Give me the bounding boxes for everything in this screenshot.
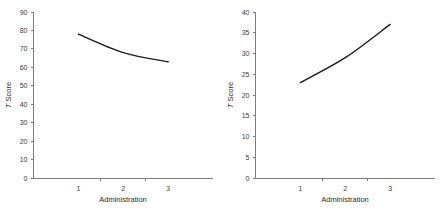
right-y-tick-label: 15 (242, 112, 250, 119)
left-x-tick-label: 3 (166, 185, 170, 192)
right-chart-axes (256, 12, 436, 179)
left-y-axis-title: T Score (4, 82, 13, 108)
left-x-axis-title: Administration (99, 195, 147, 204)
right-y-tick-label: 5 (246, 154, 250, 161)
chart-panel-left: 0102030405060708090 123 Administration T… (0, 0, 222, 208)
right-y-tick-label: 40 (242, 9, 250, 16)
left-y-tick-label: 10 (20, 156, 28, 163)
left-y-tick-label: 50 (20, 82, 28, 89)
right-chart-svg: 0510152025303540 123 Administration T Sc… (222, 0, 444, 208)
right-y-axis-title: T Score (226, 82, 235, 108)
right-y-tick-group: 0510152025303540 (242, 9, 256, 182)
right-x-tick-group: 123 (298, 178, 392, 192)
right-data-line (300, 24, 390, 82)
two-panel-line-chart-figure: 0102030405060708090 123 Administration T… (0, 0, 444, 208)
left-y-tick-label: 20 (20, 138, 28, 145)
left-y-tick-label: 90 (20, 9, 28, 16)
right-x-tick-label: 2 (343, 185, 347, 192)
left-chart-svg: 0102030405060708090 123 Administration T… (0, 0, 222, 208)
right-y-tick-label: 35 (242, 29, 250, 36)
left-y-tick-label: 80 (20, 27, 28, 34)
right-x-tick-label: 3 (388, 185, 392, 192)
left-y-tick-label: 0 (24, 175, 28, 182)
left-y-tick-label: 40 (20, 101, 28, 108)
right-y-tick-label: 30 (242, 50, 250, 57)
left-data-line (78, 34, 168, 62)
left-y-tick-label: 30 (20, 119, 28, 126)
right-y-tick-label: 25 (242, 71, 250, 78)
right-y-tick-label: 20 (242, 92, 250, 99)
right-y-tick-label: 10 (242, 133, 250, 140)
left-y-tick-group: 0102030405060708090 (20, 9, 34, 182)
right-x-tick-label: 1 (298, 185, 302, 192)
left-chart-axes (34, 12, 214, 179)
right-x-axis-title: Administration (321, 195, 369, 204)
left-y-tick-label: 60 (20, 64, 28, 71)
left-x-tick-label: 2 (121, 185, 125, 192)
left-x-tick-label: 1 (76, 185, 80, 192)
chart-panel-right: 0510152025303540 123 Administration T Sc… (222, 0, 444, 208)
left-y-tick-label: 70 (20, 45, 28, 52)
right-y-tick-label: 0 (246, 175, 250, 182)
left-x-tick-group: 123 (76, 178, 170, 192)
